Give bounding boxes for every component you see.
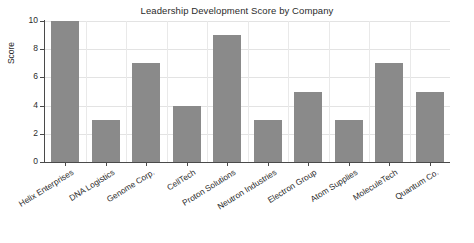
- y-tick-label: 2: [12, 129, 38, 138]
- bar: [375, 63, 403, 162]
- y-tick-mark: [40, 134, 44, 135]
- x-tick-mark: [268, 163, 269, 166]
- y-tick-label: 10: [12, 16, 38, 25]
- x-tick-mark: [349, 163, 350, 166]
- x-tick-mark: [430, 163, 431, 166]
- x-tick-mark: [187, 163, 188, 166]
- bar: [335, 120, 363, 162]
- bar: [132, 63, 160, 162]
- gridline-vertical: [167, 21, 168, 162]
- gridline-vertical: [86, 21, 87, 162]
- y-tick-label-wrap: 4: [8, 101, 38, 111]
- bar: [213, 35, 241, 162]
- chart-title: Leadership Development Score by Company: [0, 5, 474, 16]
- y-tick-mark: [40, 77, 44, 78]
- y-tick-mark: [40, 162, 44, 163]
- x-tick-mark: [308, 163, 309, 166]
- bar: [294, 92, 322, 163]
- y-tick-label-wrap: 0: [8, 157, 38, 167]
- y-tick-label: 0: [12, 157, 38, 166]
- y-tick-mark: [40, 49, 44, 50]
- y-tick-label-wrap: 6: [8, 72, 38, 82]
- x-tick-mark: [106, 163, 107, 166]
- bar: [92, 120, 120, 162]
- gridline-vertical: [248, 21, 249, 162]
- gridline-vertical: [207, 21, 208, 162]
- y-tick-mark: [40, 21, 44, 22]
- x-tick-mark: [146, 163, 147, 166]
- gridline-vertical: [126, 21, 127, 162]
- x-tick-mark: [227, 163, 228, 166]
- x-tick-mark: [389, 163, 390, 166]
- plot-area: [45, 21, 450, 162]
- y-tick-label-wrap: 2: [8, 129, 38, 139]
- gridline-vertical: [329, 21, 330, 162]
- bar-chart-figure: Leadership Development Score by Company …: [0, 0, 474, 243]
- gridline-vertical: [410, 21, 411, 162]
- bar: [416, 92, 444, 163]
- y-tick-label: 8: [12, 44, 38, 53]
- y-tick-mark: [40, 106, 44, 107]
- gridline-vertical: [288, 21, 289, 162]
- y-tick-label: 4: [12, 101, 38, 110]
- y-tick-label: 6: [12, 72, 38, 81]
- bar: [173, 106, 201, 162]
- y-tick-label-wrap: 10: [8, 16, 38, 26]
- gridline-vertical: [369, 21, 370, 162]
- y-tick-label-wrap: 8: [8, 44, 38, 54]
- bar: [51, 21, 79, 162]
- x-tick-mark: [65, 163, 66, 166]
- bar: [254, 120, 282, 162]
